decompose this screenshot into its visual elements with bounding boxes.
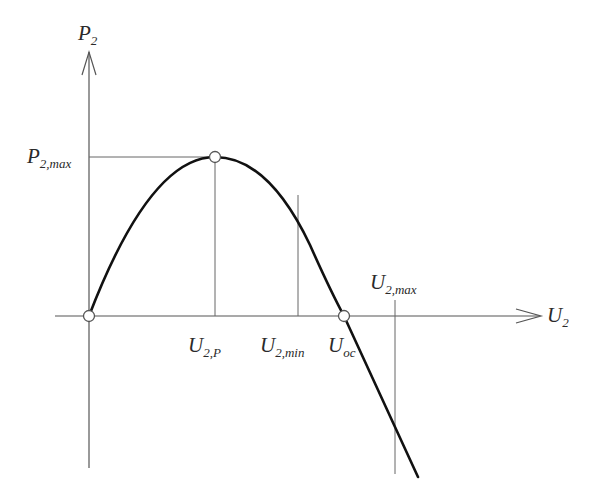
power-voltage-diagram: P2 U2 P2,max U2,P U2,min Uoc U2,max — [0, 0, 595, 500]
max-power-marker — [210, 152, 221, 163]
origin-marker — [84, 311, 95, 322]
y-axis-label: P2 — [77, 21, 98, 48]
y-axis — [82, 52, 96, 468]
p2max-label: P2,max — [26, 144, 71, 171]
power-curve — [89, 157, 418, 477]
u2p-label: U2,P — [188, 333, 221, 360]
u2max-label: U2,max — [370, 270, 417, 297]
u2min-label: U2,min — [260, 333, 304, 360]
uoc-label: Uoc — [328, 333, 356, 360]
open-circuit-marker — [339, 311, 350, 322]
x-axis-label: U2 — [547, 303, 569, 330]
